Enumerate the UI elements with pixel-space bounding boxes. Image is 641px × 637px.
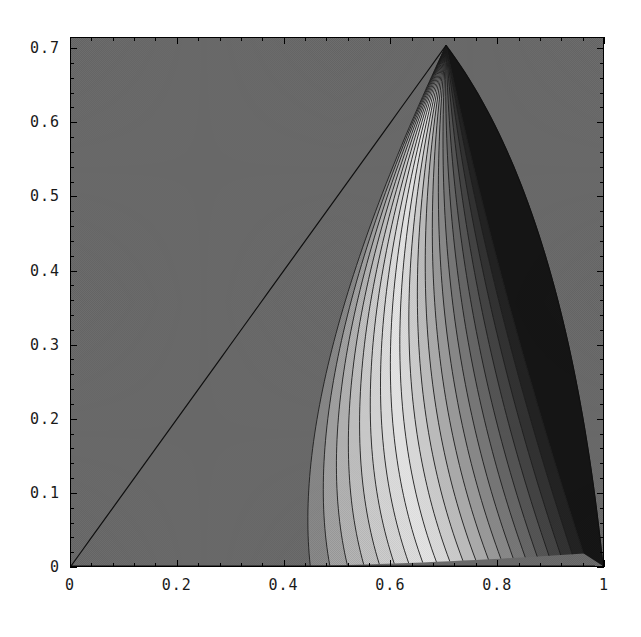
x-axis-tick-minor — [241, 563, 242, 567]
x-axis-tick-minor-top — [198, 37, 199, 41]
x-axis-tick-minor-top — [476, 37, 477, 41]
y-axis-tick-minor — [70, 137, 74, 138]
y-axis-tick-minor-right — [600, 137, 604, 138]
y-axis-tick-major-right — [597, 567, 604, 568]
y-axis-tick-minor-right — [600, 78, 604, 79]
y-axis-tick-major-right — [597, 419, 604, 420]
y-axis-tick-minor-right — [600, 508, 604, 509]
x-axis-tick-minor — [198, 563, 199, 567]
y-axis-tick-major-right — [597, 196, 604, 197]
y-axis-tick-minor — [70, 448, 74, 449]
x-axis-tick-label: 1 — [574, 576, 634, 594]
y-axis-tick-minor-right — [600, 107, 604, 108]
y-axis-tick-minor-right — [600, 182, 604, 183]
x-axis-tick-minor — [412, 563, 413, 567]
y-axis-tick-minor-right — [600, 211, 604, 212]
y-axis-tick-minor-right — [600, 93, 604, 94]
x-axis-tick-label: 0.4 — [254, 576, 314, 594]
y-axis-tick-minor — [70, 359, 74, 360]
y-axis-tick-major — [70, 345, 77, 346]
x-axis-tick-minor — [113, 563, 114, 567]
x-axis-tick-minor-top — [412, 37, 413, 41]
y-axis-tick-minor — [70, 182, 74, 183]
y-axis-tick-minor-right — [600, 448, 604, 449]
y-axis-tick-minor — [70, 78, 74, 79]
x-axis-tick-minor — [326, 563, 327, 567]
y-axis-tick-major — [70, 493, 77, 494]
y-axis-tick-minor-right — [600, 478, 604, 479]
y-axis-tick-minor-right — [600, 552, 604, 553]
x-axis-tick-minor-top — [91, 37, 92, 41]
y-axis-tick-minor-right — [600, 256, 604, 257]
x-axis-tick-label: 0 — [40, 576, 100, 594]
x-axis-tick-label: 0.8 — [467, 576, 527, 594]
x-axis-tick-minor-top — [155, 37, 156, 41]
y-axis-tick-minor-right — [600, 434, 604, 435]
x-axis-tick-minor — [305, 563, 306, 567]
x-axis-tick-minor — [348, 563, 349, 567]
plot-canvas — [71, 38, 603, 566]
x-axis-tick-major-top — [177, 37, 178, 44]
x-axis-tick-major — [390, 560, 391, 567]
x-axis-tick-major-top — [390, 37, 391, 44]
x-axis-tick-label: 0.2 — [147, 576, 207, 594]
x-axis-tick-major — [604, 560, 605, 567]
y-axis-tick-minor-right — [600, 463, 604, 464]
y-axis-tick-minor — [70, 93, 74, 94]
y-axis-tick-major — [70, 567, 77, 568]
y-axis-tick-minor — [70, 63, 74, 64]
y-axis-tick-minor — [70, 107, 74, 108]
x-axis-tick-minor-top — [262, 37, 263, 41]
y-axis-tick-label: 0.1 — [2, 484, 60, 502]
x-axis-tick-minor-top — [305, 37, 306, 41]
y-axis-tick-minor-right — [600, 315, 604, 316]
y-axis-tick-label: 0.7 — [2, 39, 60, 57]
x-axis-tick-minor — [540, 563, 541, 567]
y-axis-tick-major — [70, 48, 77, 49]
y-axis-tick-minor — [70, 285, 74, 286]
x-axis-tick-minor-top — [326, 37, 327, 41]
y-axis-tick-major-right — [597, 48, 604, 49]
y-axis-tick-label: 0.6 — [2, 113, 60, 131]
y-axis-tick-minor — [70, 523, 74, 524]
x-axis-tick-minor — [476, 563, 477, 567]
x-axis-tick-major-top — [604, 37, 605, 44]
y-axis-tick-minor-right — [600, 330, 604, 331]
y-axis-tick-minor — [70, 434, 74, 435]
y-axis-tick-major — [70, 196, 77, 197]
x-axis-tick-minor — [433, 563, 434, 567]
dither-overlay — [71, 38, 603, 566]
y-axis-tick-minor — [70, 300, 74, 301]
y-axis-tick-major — [70, 122, 77, 123]
x-axis-tick-minor — [561, 563, 562, 567]
y-axis-tick-major-right — [597, 493, 604, 494]
y-axis-tick-minor-right — [600, 359, 604, 360]
y-axis-tick-minor — [70, 241, 74, 242]
y-axis-tick-minor — [70, 330, 74, 331]
y-axis-tick-minor — [70, 211, 74, 212]
contour-plot-figure: 00.20.40.60.8100.10.20.30.40.50.60.7 — [0, 0, 641, 637]
y-axis-tick-minor-right — [600, 241, 604, 242]
x-axis-tick-major — [284, 560, 285, 567]
x-axis-tick-minor-top — [519, 37, 520, 41]
x-axis-tick-major-top — [497, 37, 498, 44]
x-axis-tick-major — [177, 560, 178, 567]
y-axis-tick-minor-right — [600, 537, 604, 538]
x-axis-tick-major-top — [284, 37, 285, 44]
x-axis-tick-minor-top — [369, 37, 370, 41]
y-axis-tick-label: 0 — [2, 558, 60, 576]
y-axis-tick-major — [70, 419, 77, 420]
y-axis-tick-minor — [70, 167, 74, 168]
plot-frame — [70, 37, 604, 567]
x-axis-tick-minor-top — [134, 37, 135, 41]
y-axis-tick-label: 0.2 — [2, 410, 60, 428]
y-axis-tick-minor-right — [600, 167, 604, 168]
y-axis-tick-minor — [70, 508, 74, 509]
y-axis-tick-major-right — [597, 122, 604, 123]
x-axis-tick-minor-top — [220, 37, 221, 41]
x-axis-tick-label: 0.6 — [360, 576, 420, 594]
x-axis-tick-minor — [155, 563, 156, 567]
y-axis-tick-minor-right — [600, 404, 604, 405]
x-axis-tick-minor — [454, 563, 455, 567]
y-axis-tick-minor-right — [600, 523, 604, 524]
